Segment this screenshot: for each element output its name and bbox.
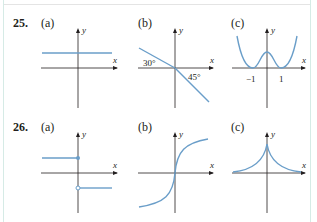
svg-text:x: x	[301, 160, 306, 170]
svg-text:y: y	[270, 129, 275, 139]
graph-26c: yx	[0, 0, 317, 222]
